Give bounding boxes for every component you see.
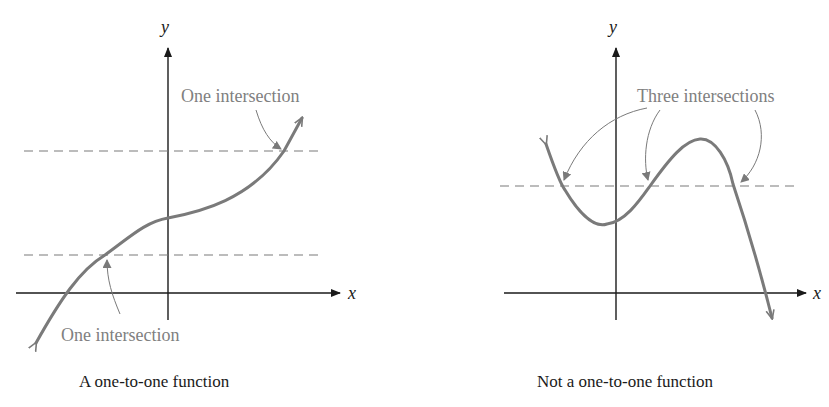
annotation-one-intersection-bottom: One intersection [61, 325, 179, 345]
y-axis-label: y [159, 17, 169, 37]
right-graph: y x Three intersections [500, 17, 821, 320]
pointer-arrow-1 [564, 108, 647, 180]
pointer-arrow-2 [646, 110, 660, 180]
one-to-one-curve [36, 118, 302, 343]
right-caption: Not a one-to-one function [537, 372, 713, 392]
y-axis-label: y [607, 17, 617, 37]
non-one-to-one-curve [546, 139, 772, 318]
annotation-one-intersection-top: One intersection [181, 86, 299, 106]
x-axis-label: x [347, 283, 356, 303]
left-graph: y x One intersection One intersection [16, 17, 356, 345]
diagram-canvas: y x One intersection One intersection y … [0, 0, 829, 407]
left-caption: A one-to-one function [79, 372, 229, 392]
x-axis-label: x [812, 283, 821, 303]
pointer-arrow-3 [741, 110, 761, 182]
annotation-three-intersections: Three intersections [637, 86, 774, 106]
pointer-arrow-bottom [107, 260, 120, 314]
pointer-arrow-top [256, 110, 281, 149]
